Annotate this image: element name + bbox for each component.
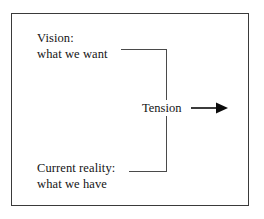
right-arrow-icon bbox=[190, 100, 230, 116]
vision-label-line2: what we want bbox=[37, 46, 108, 62]
current-reality-label-line1: Current reality: bbox=[37, 160, 115, 176]
vision-label-line1: Vision: bbox=[37, 30, 108, 46]
current-reality-node: Current reality: what we have bbox=[37, 160, 115, 192]
diagram-screenshot: Vision: what we want Current reality: wh… bbox=[0, 0, 264, 219]
vision-node: Vision: what we want bbox=[37, 30, 108, 62]
bracket-top-line bbox=[121, 49, 167, 50]
tension-label: Tension bbox=[140, 100, 183, 116]
bracket-bottom-line bbox=[129, 171, 167, 172]
diagram-frame: Vision: what we want Current reality: wh… bbox=[11, 13, 249, 206]
current-reality-label-line2: what we have bbox=[37, 176, 115, 192]
